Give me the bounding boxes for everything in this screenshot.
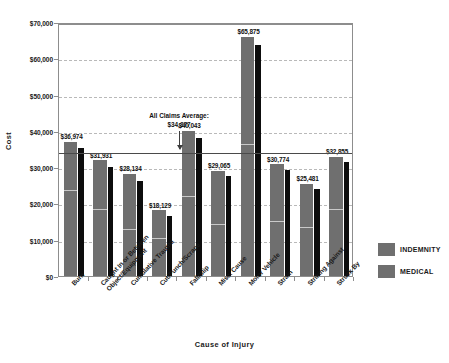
- bar-medical[interactable]: [78, 148, 84, 276]
- y-axis-tick-label: $10,000: [1, 237, 53, 244]
- plot-area: $36,974$31,931$28,134$18,129$40,043$29,0…: [58, 23, 353, 277]
- bar-indemnity[interactable]: [211, 171, 225, 276]
- bar-chart-figure: Cost $0$10,000$20,000$30,000$40,000$50,0…: [0, 0, 449, 363]
- y-axis-tick-label: $0: [1, 274, 53, 281]
- legend-swatch-indemnity: [378, 243, 395, 256]
- bar-value-label: $36,974: [61, 133, 83, 140]
- y-axis-tick-label: $20,000: [1, 201, 53, 208]
- x-axis-tick-mark: [294, 277, 295, 281]
- legend-label-indemnity: INDEMNITY: [400, 246, 441, 253]
- y-axis-tick-label: $60,000: [1, 56, 53, 63]
- bar-medical[interactable]: [255, 45, 261, 276]
- y-axis-tick-label: $30,000: [1, 165, 53, 172]
- bar-split-line: [329, 209, 343, 210]
- gridline: [59, 133, 352, 134]
- x-axis-tick-mark: [206, 277, 207, 281]
- gridline: [59, 97, 352, 98]
- average-annotation-line1: All Claims Average:: [149, 112, 209, 119]
- bar-value-label: $30,774: [267, 156, 289, 163]
- gridline: [59, 24, 352, 25]
- bar-indemnity[interactable]: [241, 37, 255, 276]
- bar-medical[interactable]: [285, 170, 291, 276]
- bar-value-label: $18,129: [149, 202, 171, 209]
- x-axis-tick-mark: [147, 277, 148, 281]
- bar-split-line: [182, 196, 196, 197]
- bar-split-line: [93, 209, 107, 210]
- y-axis-tick-label: $40,000: [1, 128, 53, 135]
- bar-split-line: [152, 238, 166, 239]
- x-axis-tick-mark: [265, 277, 266, 281]
- x-axis-title: Cause of Injury: [0, 340, 449, 349]
- bar-medical[interactable]: [108, 167, 114, 276]
- bar-indemnity[interactable]: [93, 160, 107, 276]
- bar-value-label: $65,875: [238, 28, 260, 35]
- average-reference-line: [59, 153, 352, 154]
- legend-swatch-medical: [378, 265, 395, 278]
- bar-split-line: [241, 144, 255, 145]
- x-axis-tick-mark: [324, 277, 325, 281]
- bar-indemnity[interactable]: [300, 184, 314, 276]
- bar-indemnity[interactable]: [64, 142, 78, 276]
- bar-split-line: [123, 229, 137, 230]
- bar-value-label: $29,065: [208, 162, 230, 169]
- legend-label-medical: MEDICAL: [400, 268, 434, 275]
- bar-split-line: [64, 190, 78, 191]
- legend-item-indemnity: INDEMNITY: [378, 243, 441, 256]
- legend-item-medical: MEDICAL: [378, 265, 441, 278]
- bar-medical[interactable]: [226, 176, 232, 276]
- y-axis-tick-mark: [54, 277, 58, 278]
- bar-split-line: [270, 221, 284, 222]
- y-axis-tick-label: $70,000: [1, 20, 53, 27]
- x-axis-tick-mark: [235, 277, 236, 281]
- bar-medical[interactable]: [344, 162, 350, 276]
- average-annotation-line2: $34,377: [167, 121, 190, 128]
- bar-value-label: $28,134: [120, 165, 142, 172]
- average-annotation-arrow: [179, 131, 180, 149]
- gridline: [59, 60, 352, 61]
- bar-medical[interactable]: [314, 189, 320, 276]
- chart-legend: INDEMNITY MEDICAL: [378, 243, 441, 287]
- x-axis-tick-mark: [353, 277, 354, 281]
- bar-medical[interactable]: [196, 138, 202, 276]
- y-axis-tick-label: $50,000: [1, 92, 53, 99]
- bar-split-line: [211, 224, 225, 225]
- average-annotation-label: All Claims Average: $34,377: [149, 111, 209, 129]
- x-axis-tick-mark: [88, 277, 89, 281]
- x-axis-tick-mark: [176, 277, 177, 281]
- bar-value-label: $25,481: [297, 175, 319, 182]
- bar-split-line: [300, 227, 314, 228]
